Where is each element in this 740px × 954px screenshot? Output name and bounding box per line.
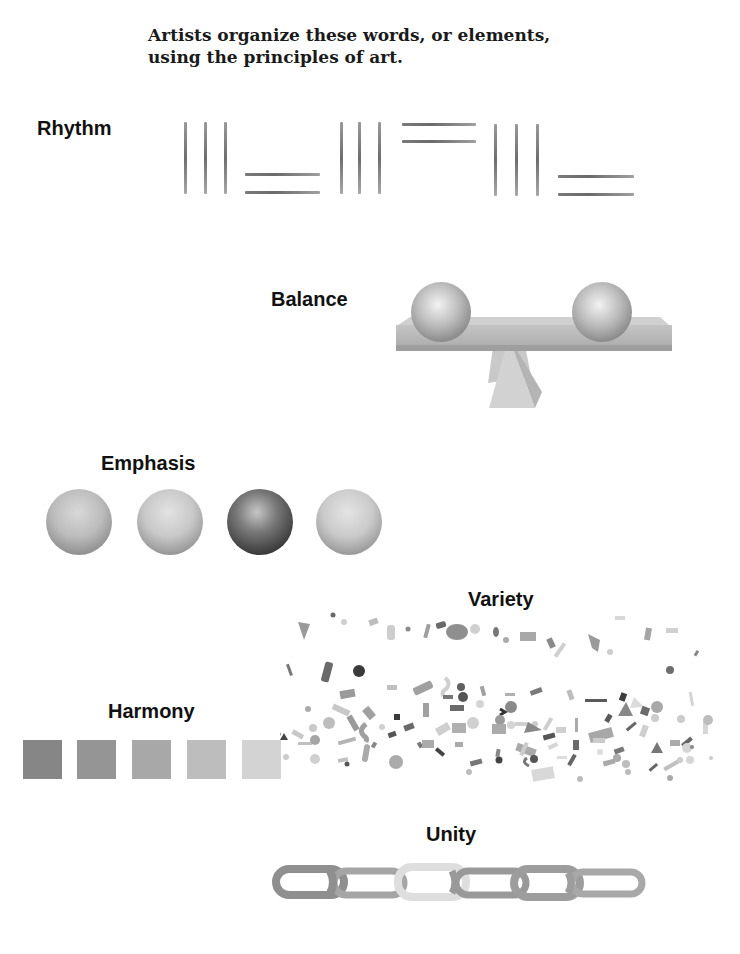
emphasis-sphere-3-emphasized <box>227 489 293 555</box>
intro-line-2: using the principles of art. <box>148 46 568 68</box>
harmony-swatch-4 <box>187 740 226 779</box>
harmony-swatch-5 <box>242 740 281 779</box>
harmony-swatch-3 <box>132 740 171 779</box>
unity-label: Unity <box>426 823 476 846</box>
emphasis-sphere-2 <box>137 489 203 555</box>
rhythm-label: Rhythm <box>37 117 111 140</box>
variety-label: Variety <box>468 588 534 611</box>
harmony-swatch-1 <box>23 740 62 779</box>
balance-label: Balance <box>271 288 348 311</box>
emphasis-sphere-1 <box>46 489 112 555</box>
emphasis-sphere-4 <box>316 489 382 555</box>
intro-line-1: Artists organize these words, or element… <box>148 24 568 46</box>
harmony-swatch-2 <box>77 740 116 779</box>
harmony-label: Harmony <box>108 700 195 723</box>
intro-text: Artists organize these words, or element… <box>148 24 568 68</box>
emphasis-label: Emphasis <box>101 452 195 475</box>
